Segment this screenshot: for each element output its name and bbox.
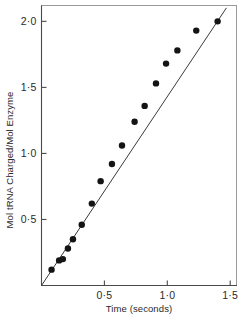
data-point: [89, 200, 95, 206]
x-tick-label: 1·0: [159, 289, 175, 301]
x-axis-title: Time (seconds): [106, 303, 173, 314]
data-point: [97, 178, 103, 184]
x-tick-label: 0·5: [97, 289, 113, 301]
figure-container: 0·51·01·50·51·01·52·0 Time (seconds) Mol…: [0, 0, 249, 320]
fit-line-group: [42, 8, 227, 286]
data-point: [48, 266, 54, 272]
data-point: [79, 222, 85, 228]
data-point: [131, 119, 137, 125]
data-point: [153, 80, 159, 86]
axis-ticks: 0·51·01·50·51·01·52·0: [21, 15, 238, 301]
y-tick-label: 1·5: [21, 81, 37, 93]
y-tick-label: 1·0: [21, 147, 37, 159]
data-point: [174, 47, 180, 53]
y-tick-label: 2·0: [21, 15, 37, 27]
y-tick-label: 0·5: [21, 213, 37, 225]
y-axis-title: Mol tRNA Charged/Mol Enzyme: [4, 92, 15, 229]
data-point: [70, 236, 76, 242]
data-point: [65, 245, 71, 251]
x-tick-label: 1·5: [222, 289, 238, 301]
data-point: [119, 142, 125, 148]
regression-line: [42, 8, 227, 286]
plot-frame: [41, 6, 237, 286]
scatter-plot: 0·51·01·50·51·01·52·0 Time (seconds) Mol…: [0, 0, 249, 320]
data-point: [193, 27, 199, 33]
data-point: [109, 161, 115, 167]
data-point: [60, 256, 66, 262]
data-point: [141, 103, 147, 109]
data-point: [163, 60, 169, 66]
data-point: [214, 18, 220, 24]
